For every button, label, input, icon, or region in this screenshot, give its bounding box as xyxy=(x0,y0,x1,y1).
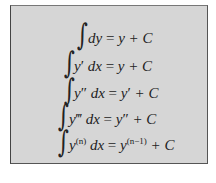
integrand-y: y xyxy=(74,85,81,101)
equation-3: y″ dx = y′ + C xyxy=(74,86,158,101)
prime: ′ xyxy=(81,58,84,74)
integrand-y: y xyxy=(69,111,76,127)
equation-2: y′ dx = y + C xyxy=(74,59,152,74)
n-minus-1-superscript: (n−1) xyxy=(127,136,147,146)
differential: dx xyxy=(90,137,104,153)
equals-sign: = xyxy=(106,30,114,46)
prime: ′ xyxy=(127,85,130,101)
integrand-y: y xyxy=(74,58,81,74)
triple-prime: ‴ xyxy=(76,111,82,127)
equation-1: dy = y + C xyxy=(88,31,152,46)
result: y + C xyxy=(118,30,152,46)
nth-derivative-superscript: (n) xyxy=(76,136,87,146)
equals-sign: = xyxy=(104,111,112,127)
integrand: dy xyxy=(88,30,102,46)
result-y: y xyxy=(120,137,127,153)
differential: dx xyxy=(86,111,100,127)
integrand-y: y xyxy=(69,137,76,153)
constant: + C xyxy=(151,137,175,153)
equation-5: y(n) dx = y(n−1) + C xyxy=(69,138,174,153)
equals-sign: = xyxy=(109,85,117,101)
double-prime: ″ xyxy=(122,111,128,127)
differential: dx xyxy=(88,58,102,74)
result: y + C xyxy=(118,58,152,74)
equals-sign: = xyxy=(106,58,114,74)
double-prime: ″ xyxy=(81,85,87,101)
integral-sign: ∫ xyxy=(77,20,88,50)
equation-4: y‴ dx = y″ + C xyxy=(69,112,156,127)
equals-sign: = xyxy=(108,137,116,153)
differential: dx xyxy=(91,85,105,101)
integral-sign: ∫ xyxy=(58,127,69,157)
constant: + C xyxy=(135,85,159,101)
constant: + C xyxy=(132,111,156,127)
